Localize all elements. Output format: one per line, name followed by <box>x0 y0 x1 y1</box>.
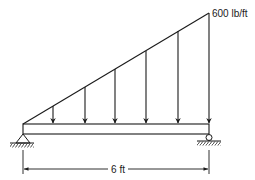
load-envelope-line <box>23 13 209 124</box>
roller-support <box>197 135 221 146</box>
span-label: 6 ft <box>111 164 125 175</box>
pin-support <box>10 134 34 148</box>
distributed-load: 600 lb/ft <box>23 8 248 124</box>
beam-diagram: 600 lb/ft 6 ft <box>0 0 255 180</box>
ground-hatch-icon <box>197 142 221 146</box>
roller-support-icon <box>206 135 212 141</box>
pin-support-icon <box>16 134 30 143</box>
load-arrows <box>53 13 209 123</box>
load-intensity-label: 600 lb/ft <box>212 8 248 19</box>
ground-hatch-icon <box>10 144 34 148</box>
beam <box>23 124 209 134</box>
